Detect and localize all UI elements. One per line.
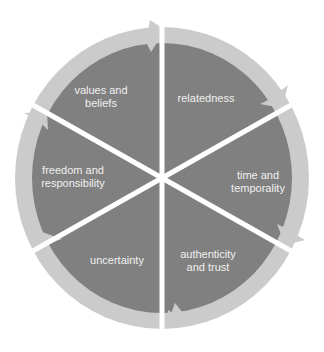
segment-label: and trust (180, 261, 236, 274)
segment-label: relatedness (178, 92, 235, 105)
segment-label: values and (74, 84, 127, 97)
segment-label: uncertainty (90, 254, 144, 267)
segment-freedom-and-responsibility: freedom and responsibility (41, 164, 105, 190)
segment-label: freedom and (41, 164, 105, 177)
segment-values-and-beliefs: values and beliefs (74, 84, 127, 110)
segment-time-and-temporality: time and temporality (231, 169, 285, 195)
segment-relatedness: relatedness (178, 92, 235, 105)
segment-label: time and (231, 169, 285, 182)
segment-authenticity-and-trust: authenticity and trust (180, 248, 236, 274)
segment-label: authenticity (180, 248, 236, 261)
segment-label: responsibility (41, 177, 105, 190)
segment-uncertainty: uncertainty (90, 254, 144, 267)
segment-label: beliefs (74, 97, 127, 110)
segment-label: temporality (231, 182, 285, 195)
